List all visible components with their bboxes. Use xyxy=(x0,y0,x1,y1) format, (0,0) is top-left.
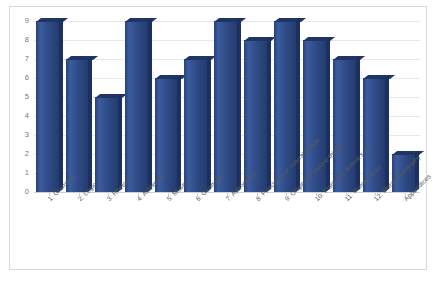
bar-side-face xyxy=(118,94,122,192)
bar[interactable] xyxy=(36,21,59,192)
bar-side-face xyxy=(237,18,241,192)
y-axis-tick-label: 1 xyxy=(25,169,29,177)
y-axis-tick-label: 5 xyxy=(25,93,29,101)
bar-side-face xyxy=(385,75,389,192)
bar[interactable] xyxy=(95,97,118,192)
bar[interactable] xyxy=(184,59,207,192)
bar-side-face xyxy=(59,18,63,192)
bar[interactable] xyxy=(244,40,267,192)
bar-series xyxy=(34,21,420,192)
y-axis-tick-label: 9 xyxy=(25,17,29,25)
y-axis-tick-label: 4 xyxy=(25,112,29,120)
bar-slot xyxy=(182,21,212,192)
bar-slot xyxy=(64,21,94,192)
bar-side-face xyxy=(326,37,330,192)
y-axis-tick-label: 7 xyxy=(25,55,29,63)
y-axis-tick-label: 6 xyxy=(25,74,29,82)
x-axis-labels: 1: Grammar2: Logic3: Rhetoric4: Arithmet… xyxy=(34,193,420,269)
bar-side-face xyxy=(207,56,211,192)
bar-side-face xyxy=(148,18,152,192)
bar-side-face xyxy=(177,75,181,192)
bar-slot xyxy=(153,21,183,192)
bar-side-face xyxy=(88,56,92,192)
plot-area xyxy=(34,21,420,192)
y-axis-tick-label: 2 xyxy=(25,150,29,158)
bar-slot xyxy=(123,21,153,192)
bar-slot xyxy=(93,21,123,192)
bar-slot xyxy=(34,21,64,192)
bar-side-face xyxy=(296,18,300,192)
bar-slot xyxy=(242,21,272,192)
y-axis-tick-label: 0 xyxy=(25,188,29,196)
y-axis-tick-label: 8 xyxy=(25,36,29,44)
y-axis-tick-label: 3 xyxy=(25,131,29,139)
bar[interactable] xyxy=(66,59,89,192)
bar[interactable] xyxy=(214,21,237,192)
bar-side-face xyxy=(356,56,360,192)
y-axis: 0123456789 xyxy=(10,21,32,192)
bar-slot xyxy=(212,21,242,192)
bar-side-face xyxy=(267,37,271,192)
bar[interactable] xyxy=(125,21,148,192)
chart-container: 0123456789 1: Grammar2: Logic3: Rhetoric… xyxy=(9,6,427,270)
